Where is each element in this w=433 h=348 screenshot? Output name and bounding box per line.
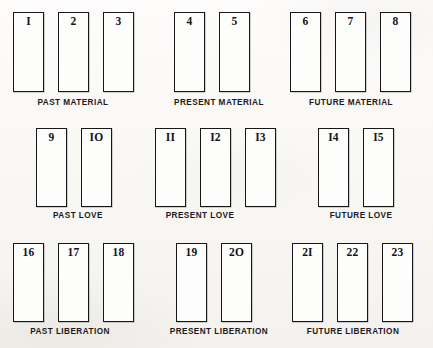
tarot-spread-diagram: I23PAST MATERIAL45PRESENT MATERIAL678FUT… — [0, 0, 433, 348]
tarot-card[interactable]: I2 — [200, 128, 231, 207]
card-number-label: I4 — [319, 132, 348, 144]
card-number-label: I2 — [201, 132, 230, 144]
tarot-card[interactable]: I3 — [245, 128, 276, 207]
tarot-card[interactable]: 7 — [335, 12, 366, 92]
group-caption: FUTURE LIBERATION — [293, 328, 413, 336]
tarot-card[interactable]: I5 — [363, 128, 394, 207]
card-number-label: I3 — [246, 132, 275, 144]
tarot-card[interactable]: II — [155, 128, 186, 207]
tarot-card[interactable]: I4 — [318, 128, 349, 207]
card-number-label: 17 — [59, 247, 88, 259]
tarot-card[interactable]: 16 — [13, 243, 44, 322]
card-number-label: I — [14, 16, 43, 28]
tarot-card[interactable]: 4 — [174, 12, 205, 92]
group-caption: PRESENT LOVE — [140, 212, 260, 220]
card-number-label: 6 — [291, 16, 320, 28]
card-number-label: 2 — [59, 16, 88, 28]
card-number-label: 9 — [37, 132, 66, 144]
group-caption: FUTURE LOVE — [301, 212, 421, 220]
card-number-label: 5 — [220, 16, 249, 28]
tarot-card[interactable]: 5 — [219, 12, 250, 92]
card-number-label: 4 — [175, 16, 204, 28]
group-caption: PRESENT LIBERATION — [159, 328, 279, 336]
card-number-label: 16 — [14, 247, 43, 259]
card-number-label: 23 — [383, 247, 412, 259]
card-number-label: 8 — [381, 16, 410, 28]
tarot-card[interactable]: IO — [81, 128, 112, 207]
tarot-card[interactable]: 18 — [103, 243, 134, 322]
tarot-card[interactable]: 2O — [221, 243, 252, 322]
card-number-label: 7 — [336, 16, 365, 28]
card-number-label: 3 — [104, 16, 133, 28]
tarot-card[interactable]: 2 — [58, 12, 89, 92]
tarot-card[interactable]: 23 — [382, 243, 413, 322]
group-caption: PAST MATERIAL — [13, 99, 133, 107]
card-number-label: II — [156, 132, 185, 144]
tarot-card[interactable]: 9 — [36, 128, 67, 207]
tarot-card[interactable]: 22 — [337, 243, 368, 322]
group-caption: PRESENT MATERIAL — [159, 99, 279, 107]
tarot-card[interactable]: 8 — [380, 12, 411, 92]
card-number-label: 18 — [104, 247, 133, 259]
group-caption: PAST LIBERATION — [10, 328, 130, 336]
tarot-card[interactable]: 19 — [176, 243, 207, 322]
card-number-label: 2I — [293, 247, 322, 259]
card-number-label: 2O — [222, 247, 251, 259]
group-caption: PAST LOVE — [18, 212, 138, 220]
tarot-card[interactable]: 6 — [290, 12, 321, 92]
tarot-card[interactable]: I — [13, 12, 44, 92]
tarot-card[interactable]: 17 — [58, 243, 89, 322]
card-number-label: IO — [82, 132, 111, 144]
card-number-label: I5 — [364, 132, 393, 144]
card-number-label: 19 — [177, 247, 206, 259]
card-number-label: 22 — [338, 247, 367, 259]
group-caption: FUTURE MATERIAL — [291, 99, 411, 107]
tarot-card[interactable]: 3 — [103, 12, 134, 92]
tarot-card[interactable]: 2I — [292, 243, 323, 322]
